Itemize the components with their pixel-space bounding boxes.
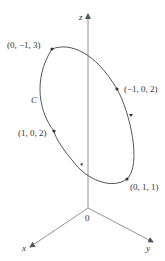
space-curve-diagram: z x y 0 C (0, −1, 3) (−1, 0, 2) (0, 1, 1…: [0, 0, 165, 261]
point-label-neg1-0-2: (−1, 0, 2): [124, 84, 158, 94]
point-neg1-0-2: [115, 87, 118, 90]
point-label-0-1-1: (0, 1, 1): [130, 182, 159, 192]
x-axis-label: x: [21, 243, 26, 253]
point-0-neg1-3: [50, 47, 53, 50]
point-label-1-0-2: (1, 0, 2): [18, 128, 47, 138]
z-axis-label: z: [78, 12, 83, 22]
direction-arrow-icon: [80, 163, 83, 166]
y-axis-label: y: [145, 243, 150, 253]
point-label-0-neg1-3: (0, −1, 3): [7, 40, 41, 50]
point-1-0-2: [52, 129, 55, 132]
direction-arrow-icon: [129, 114, 133, 117]
curve-c: [40, 47, 134, 184]
curve-label: C: [31, 95, 38, 105]
x-axis: [30, 208, 88, 247]
point-0-1-1: [125, 177, 128, 180]
origin-label: 0: [85, 213, 90, 223]
y-axis: [88, 208, 153, 242]
